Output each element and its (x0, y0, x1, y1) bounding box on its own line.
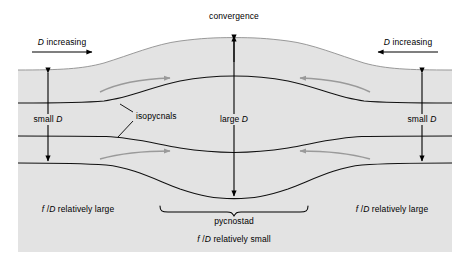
small-d-left-label: small D (30, 114, 65, 125)
fd-small-text-center: relatively small (211, 234, 271, 244)
large-d-label: large D (216, 114, 252, 125)
oceanographic-cross-section-figure: convergence D increasing D increasing sm… (0, 0, 468, 266)
isopycnals-label: isopycnals (136, 112, 177, 121)
convergence-text: convergence (209, 11, 259, 21)
fd-large-text-right: relatively large (369, 204, 428, 214)
small-text-left: small (33, 114, 56, 124)
small-text-right: small (407, 114, 430, 124)
d-increasing-text-right: increasing (390, 37, 432, 47)
fd-large-right-label: f /D relatively large (356, 205, 429, 214)
d-increasing-text-left: increasing (44, 37, 86, 47)
d-increasing-right-label: D increasing (384, 38, 432, 47)
fd-small-center-label: f /D relatively small (197, 235, 270, 244)
isopycnals-text: isopycnals (136, 111, 177, 121)
fd-large-text-left: relatively large (55, 204, 114, 214)
convergence-label: convergence (209, 12, 259, 21)
d-symbol-small-right: D (430, 114, 436, 124)
d-symbol-large: D (242, 114, 248, 124)
pycnostad-text: pycnostad (214, 216, 254, 226)
d-increasing-left-label: D increasing (38, 38, 86, 47)
fd-large-left-label: f /D relatively large (42, 205, 115, 214)
small-d-right-label: small D (404, 114, 439, 125)
pycnostad-label: pycnostad (214, 217, 254, 226)
large-text: large (220, 114, 242, 124)
d-symbol-small-left: D (56, 114, 62, 124)
